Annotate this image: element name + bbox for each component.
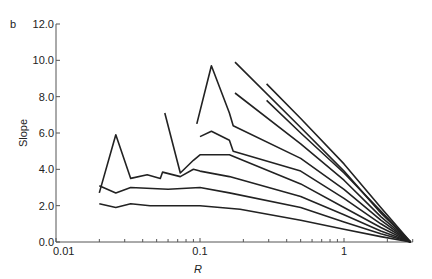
y-tick-label: 0.0 xyxy=(39,236,54,248)
series-line-curve-4 xyxy=(165,113,411,242)
series-line-curve-6 xyxy=(197,66,411,242)
y-tick-label: 8.0 xyxy=(39,91,54,103)
y-tick-label: 2.0 xyxy=(39,200,54,212)
x-tick-label: 0.1 xyxy=(192,245,207,257)
y-axis: 0.02.04.06.08.010.012.0 xyxy=(33,18,60,248)
x-axis: 0.010.11 xyxy=(53,238,413,257)
panel-label: b xyxy=(10,18,16,30)
x-tick-label: 0.01 xyxy=(53,245,74,257)
y-tick-label: 12.0 xyxy=(33,18,54,30)
y-axis-label: Slope xyxy=(17,119,29,147)
y-tick-label: 6.0 xyxy=(39,127,54,139)
x-axis-label: R xyxy=(194,263,202,275)
y-tick-label: 4.0 xyxy=(39,163,54,175)
series-group xyxy=(99,62,410,242)
slope-vs-r-chart: b 0.02.04.06.08.010.012.0 0.010.11 Slope… xyxy=(0,0,432,279)
x-tick-label: 1 xyxy=(341,245,347,257)
y-tick-label: 10.0 xyxy=(33,54,54,66)
